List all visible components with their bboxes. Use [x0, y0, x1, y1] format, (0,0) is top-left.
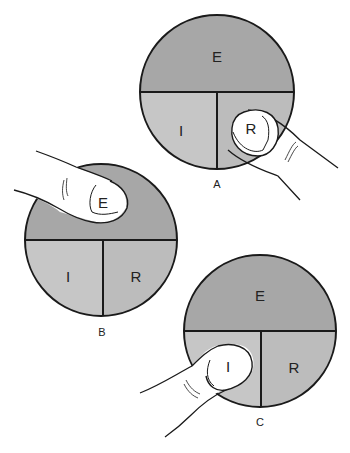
region-i-b: [20, 240, 103, 325]
panel-a: E I R A: [130, 10, 338, 200]
region-r-c: [261, 331, 341, 416]
label-e-a: E: [212, 48, 222, 65]
panel-c: E R I C: [140, 250, 341, 437]
label-e-b: E: [98, 194, 108, 211]
label-i-a: I: [179, 122, 183, 139]
label-i-c: I: [226, 358, 230, 375]
label-e-c: E: [255, 287, 265, 304]
label-r-a: R: [246, 120, 257, 137]
label-r-b: R: [131, 268, 142, 285]
erin-diagram: E I R A I R E B: [0, 0, 350, 453]
finger-icon-b: [0, 150, 128, 223]
panel-b: I R E B: [0, 150, 185, 338]
region-r-b: [103, 240, 185, 325]
caption-b: B: [98, 326, 105, 338]
caption-c: C: [256, 416, 264, 428]
label-i-b: I: [66, 268, 70, 285]
caption-a: A: [213, 178, 221, 190]
circle-a-regions: [130, 10, 310, 182]
label-r-c: R: [289, 359, 300, 376]
